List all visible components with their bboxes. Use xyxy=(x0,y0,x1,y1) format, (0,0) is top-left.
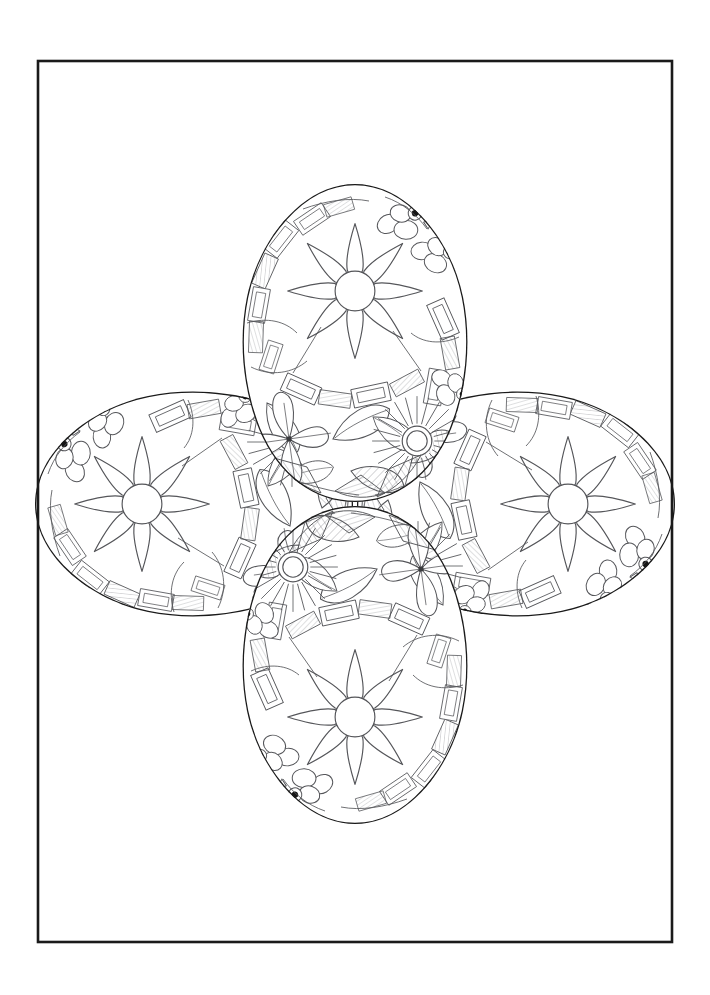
coloring-page xyxy=(0,0,710,995)
coloring-page-artwork xyxy=(0,0,710,995)
